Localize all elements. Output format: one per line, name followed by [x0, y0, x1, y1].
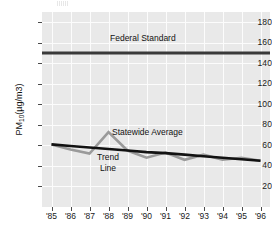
gridline-horizontal: [42, 63, 270, 64]
gridline-horizontal: [42, 22, 270, 23]
y-axis-tick-label: 120: [238, 79, 272, 88]
x-axis-tick-mark: [128, 207, 129, 211]
y-axis-tick-label: 60: [238, 141, 272, 150]
x-axis-tick-mark: [52, 207, 53, 211]
scan-artifact: [57, 1, 69, 6]
trend-line-label-line1: Trend: [97, 152, 119, 162]
y-axis-tick-label: 80: [238, 120, 272, 129]
statewide-average-label: Statewide Average: [112, 127, 183, 138]
x-axis-tick-mark: [185, 207, 186, 211]
x-axis-tick-mark: [204, 207, 205, 211]
x-axis-tick-mark: [90, 207, 91, 211]
gridline-vertical: [223, 12, 224, 207]
y-axis-tick-mark: [38, 166, 42, 167]
y-axis-tick-label: 40: [238, 161, 272, 170]
gridline-horizontal: [42, 186, 270, 187]
gridline-vertical: [185, 12, 186, 207]
y-axis-title-suffix: (µg/m3): [14, 84, 24, 115]
y-axis-tick-mark: [38, 84, 42, 85]
x-axis-tick-mark: [166, 207, 167, 211]
trend-line-label-line2: Line: [100, 163, 116, 173]
x-axis-tick-label: '96: [248, 212, 273, 221]
y-axis-tick-label: 180: [238, 18, 272, 27]
y-axis-tick-mark: [38, 63, 42, 64]
y-axis-title-subscript: 10: [18, 115, 25, 122]
gridline-horizontal: [42, 104, 270, 105]
y-axis-title-prefix: PM: [14, 122, 24, 136]
x-axis-tick-mark: [71, 207, 72, 211]
pm10-trend-chart: 18016014012010080604020 PM10 (µg/m3) '85…: [0, 0, 272, 237]
x-axis-tick-mark: [223, 207, 224, 211]
y-axis-tick-mark: [38, 145, 42, 146]
y-axis-tick-label: 100: [238, 100, 272, 109]
federal-standard-label: Federal Standard: [110, 33, 176, 44]
y-axis-tick-label: 140: [238, 59, 272, 68]
y-axis-tick-mark: [38, 104, 42, 105]
y-axis-tick-mark: [38, 186, 42, 187]
gridline-vertical: [71, 12, 72, 207]
gridline-horizontal: [42, 125, 270, 126]
y-axis-tick-mark: [38, 125, 42, 126]
gridline-horizontal: [42, 145, 270, 146]
gridline-horizontal: [42, 84, 270, 85]
y-axis-tick-mark: [38, 43, 42, 44]
y-axis-tick-label: 160: [238, 38, 272, 47]
x-axis-tick-mark: [109, 207, 110, 211]
x-axis-tick-mark: [242, 207, 243, 211]
x-axis-tick-mark: [147, 207, 148, 211]
y-axis-title: PM10 (µg/m3): [12, 12, 26, 207]
y-axis-tick-mark: [38, 22, 42, 23]
y-axis-tick-label: 20: [238, 182, 272, 191]
x-axis-tick-mark: [261, 207, 262, 211]
gridline-vertical: [52, 12, 53, 207]
trend-line-label: Trend Line: [88, 152, 128, 173]
gridline-horizontal: [42, 166, 270, 167]
gridline-vertical: [90, 12, 91, 207]
gridline-vertical: [204, 12, 205, 207]
